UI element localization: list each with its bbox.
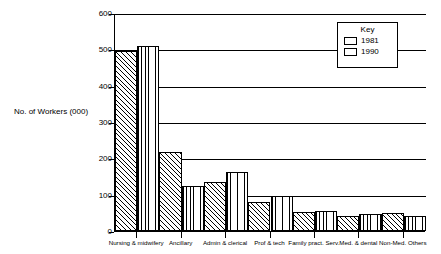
y-axis-tick-mark — [109, 232, 114, 233]
legend-swatch-vertical-hatch-icon — [344, 48, 357, 56]
legend-title: Key — [338, 25, 397, 34]
legend: Key 1981 1990 — [337, 22, 398, 68]
bar-1981-prof-tech — [248, 202, 270, 231]
bar-1981-non-med-others — [382, 213, 404, 231]
bar-1981-nursing-midwifery — [115, 51, 137, 231]
bar-1981-ancillary — [159, 152, 181, 231]
bar-1990-ancillary — [182, 186, 204, 231]
bar-1990-admin-clerical — [226, 172, 248, 231]
x-axis-tick-label: Non-Med. Others — [379, 239, 426, 246]
x-axis-tick-mark — [314, 232, 315, 238]
legend-label-1990: 1990 — [361, 47, 379, 56]
gridline — [115, 123, 426, 124]
bar-1990-nursing-midwifery — [137, 46, 159, 231]
x-axis-tick-mark — [358, 232, 359, 238]
bar-1990-med-dental — [359, 214, 381, 231]
bar-1981-family-pract-serv — [293, 212, 315, 231]
x-axis-tick-mark — [136, 232, 137, 238]
legend-swatch-diagonal-hatch-icon — [344, 37, 357, 45]
bar-1990-family-pract-serv — [315, 211, 337, 231]
x-axis-tick-mark — [181, 232, 182, 238]
x-axis-tick-label: Admin & clerical — [203, 239, 247, 246]
legend-label-1981: 1981 — [361, 36, 379, 45]
x-axis-tick-label: Med. & dental — [339, 239, 377, 246]
bar-chart: No. of Workers (000) 6005004003002001000… — [0, 0, 441, 254]
bar-1981-med-dental — [337, 216, 359, 231]
x-axis-tick-label: Ancillary — [169, 239, 192, 246]
bar-1981-admin-clerical — [204, 182, 226, 231]
x-axis-tick-mark — [225, 232, 226, 238]
x-axis-tick-mark — [270, 232, 271, 238]
x-axis-tick-label: Prof & tech — [254, 239, 285, 246]
legend-item-1990: 1990 — [344, 47, 397, 56]
bar-1990-prof-tech — [271, 196, 293, 231]
x-axis-tick-mark — [403, 232, 404, 238]
y-axis-title: No. of Workers (000) — [14, 107, 88, 116]
bar-1990-non-med-others — [404, 216, 426, 231]
gridline — [115, 14, 426, 15]
gridline — [115, 87, 426, 88]
legend-item-1981: 1981 — [344, 36, 397, 45]
x-axis-tick-label: Family pract. Serv. — [288, 239, 339, 246]
x-axis-tick-label: Nursing & midwifery — [109, 239, 164, 246]
